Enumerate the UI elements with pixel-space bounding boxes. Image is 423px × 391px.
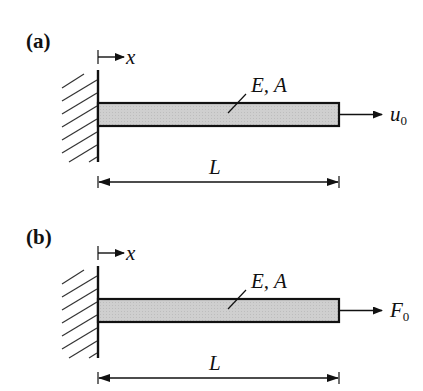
x-axis-label: x bbox=[125, 45, 136, 69]
x-axis-indicator: x bbox=[98, 241, 136, 265]
material-label: E, A bbox=[250, 269, 287, 293]
panel-a: (a) x E, A u0 bbox=[26, 29, 407, 188]
fixed-support-wall bbox=[62, 266, 98, 358]
load-subscript: 0 bbox=[403, 309, 410, 324]
bar bbox=[98, 103, 339, 126]
panel-b: (b) x E, A F0 bbox=[26, 225, 409, 384]
length-dimension: L bbox=[98, 351, 339, 384]
fixed-support-wall bbox=[62, 70, 98, 162]
x-axis-label: x bbox=[125, 241, 136, 265]
load-symbol: F bbox=[389, 298, 403, 322]
material-label: E, A bbox=[250, 73, 287, 97]
load-label: u0 bbox=[390, 102, 407, 128]
length-dimension: L bbox=[98, 155, 339, 188]
x-axis-indicator: x bbox=[98, 45, 136, 69]
length-label: L bbox=[208, 351, 221, 375]
bar bbox=[98, 299, 339, 322]
length-label: L bbox=[208, 155, 221, 179]
figure-canvas: (a) x E, A u0 bbox=[0, 0, 423, 391]
load-subscript: 0 bbox=[401, 113, 408, 128]
wall-hatching bbox=[62, 270, 97, 358]
wall-hatching bbox=[62, 74, 97, 162]
load-label: F0 bbox=[389, 298, 409, 324]
panel-label-a: (a) bbox=[26, 29, 51, 53]
load-symbol: u bbox=[390, 102, 401, 126]
panel-label-b: (b) bbox=[26, 225, 52, 249]
